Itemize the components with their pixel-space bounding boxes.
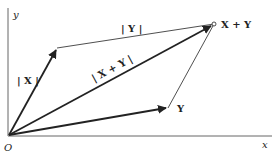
y-vector-label: Y [176,103,185,114]
y-axis-label: y [12,9,19,20]
x-plus-y-label: X + Y [221,19,252,30]
origin-label: O [4,142,12,153]
norm-x-label: | X | [17,75,39,87]
x-plus-y-point [212,22,216,26]
vector-diagram: y x O X + Y Y | X | | Y | | X + Y | [0,0,280,156]
x-axis-label: x [262,139,268,150]
norm-y-label: | Y | [121,23,142,35]
